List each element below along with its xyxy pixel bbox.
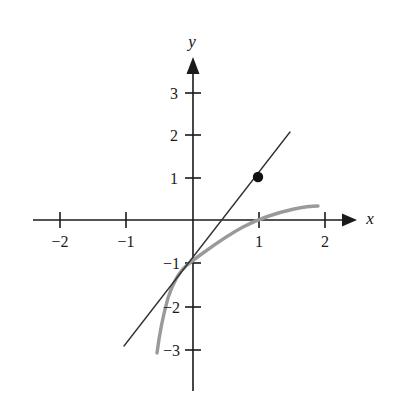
x-tick-label--1: −1 <box>117 233 134 250</box>
y-tick-label--3: −3 <box>163 342 180 359</box>
curve-series <box>157 206 318 353</box>
y-tick-label-3: 3 <box>170 85 178 102</box>
y-tick-label-1: 1 <box>170 170 178 187</box>
x-axis <box>33 214 357 227</box>
x-axis-label: x <box>365 209 374 228</box>
y-tick-label--1: −1 <box>163 255 180 272</box>
tangency-point-marker <box>253 172 263 182</box>
y-axis <box>187 57 200 391</box>
y-axis-arrowhead <box>187 57 200 74</box>
tangent-line-series <box>124 132 290 346</box>
x-tick-label-2: 2 <box>321 233 329 250</box>
cartesian-plot: x y −2 −1 1 2 3 2 1 −1 −2 −3 <box>0 0 395 403</box>
x-tick-label-1: 1 <box>255 233 263 250</box>
y-tick-label--2: −2 <box>163 299 180 316</box>
y-axis-label: y <box>186 32 196 51</box>
x-axis-arrowhead <box>342 214 357 227</box>
graph-figure: x y −2 −1 1 2 3 2 1 −1 −2 −3 <box>0 0 395 403</box>
y-tick-label-2: 2 <box>170 127 178 144</box>
x-tick-label--2: −2 <box>51 233 68 250</box>
